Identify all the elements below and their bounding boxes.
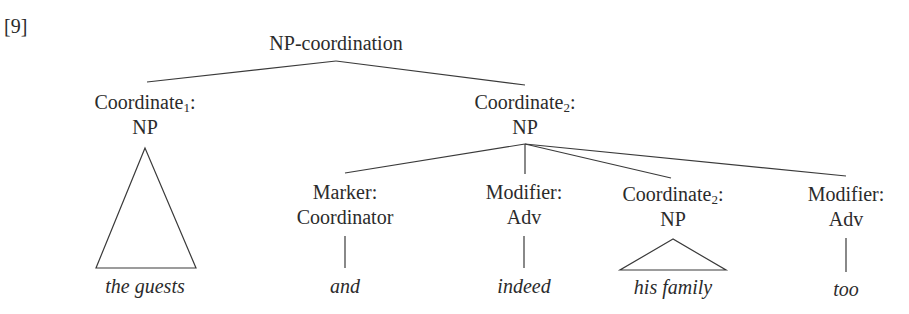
modifier1-leaf: indeed [497,274,550,299]
modifier2-node: Modifier: Adv [808,182,885,232]
coordinate2b-category: NP [623,207,724,232]
marker-category: Coordinator [297,205,394,230]
coordinate1-function: Coordinate [95,91,184,113]
coordinate1-subscript: 1 [183,100,190,115]
coordinate2b-function: Coordinate [623,183,712,205]
syntax-tree-diagram: [9] NP-coordination Coordinate1: NP the … [0,0,909,314]
branch-root-coord2 [336,61,525,85]
coordinate1-category: NP [95,115,196,140]
coordinate2b-node: Coordinate2: NP [623,182,724,232]
marker-node: Marker: Coordinator [297,180,394,230]
coordinate2b-leaf: his family [634,275,712,300]
modifier2-category: Adv [808,207,885,232]
root-label: NP-coordination [269,32,402,54]
root-node: NP-coordination [269,31,402,56]
tree-branches [0,0,909,314]
coordinate1-node: Coordinate1: NP [95,90,196,140]
coordinate2-category: NP [475,115,576,140]
modifier1-node: Modifier: Adv [486,180,563,230]
coordinate2-subscript: 2 [563,100,570,115]
coordinate2-function: Coordinate [475,91,564,113]
coordinate2b-subscript: 2 [711,192,718,207]
branch-coord2-coord2b [525,144,671,178]
marker-leaf: and [330,274,360,299]
triangle-coord2b [620,239,726,270]
branch-coord2-modifier2 [525,144,846,176]
branch-root-coord1 [147,61,336,82]
modifier1-category: Adv [486,205,563,230]
triangle-coord1 [96,148,196,268]
example-number: [9] [4,14,27,39]
marker-function: Marker: [297,180,394,205]
coordinate1-leaf: the guests [105,274,184,299]
modifier1-function: Modifier: [486,180,563,205]
modifier2-leaf: too [833,277,859,302]
branch-coord2-marker [345,144,525,173]
modifier2-function: Modifier: [808,182,885,207]
coordinate2-node: Coordinate2: NP [475,90,576,140]
